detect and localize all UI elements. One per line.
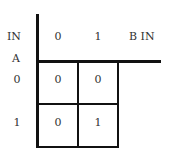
cell-a1-b1: 1 xyxy=(88,117,108,129)
column-header-1: 1 xyxy=(88,31,108,43)
cell-a0-b0: 0 xyxy=(48,74,68,86)
row-divider xyxy=(36,103,119,105)
column-header-0: 0 xyxy=(48,31,68,43)
row-header-0: 0 xyxy=(7,74,27,86)
left-axis-line xyxy=(36,14,39,148)
header-line xyxy=(36,60,161,63)
cell-a1-b0: 0 xyxy=(48,117,68,129)
row-variable-label-line1: IN xyxy=(7,31,21,43)
bottom-line xyxy=(36,146,119,148)
row-variable-label-line2: A xyxy=(12,53,20,65)
cell-a0-b1: 0 xyxy=(88,74,108,86)
column-variable-label: B IN xyxy=(129,31,155,43)
row-header-1: 1 xyxy=(7,117,27,129)
